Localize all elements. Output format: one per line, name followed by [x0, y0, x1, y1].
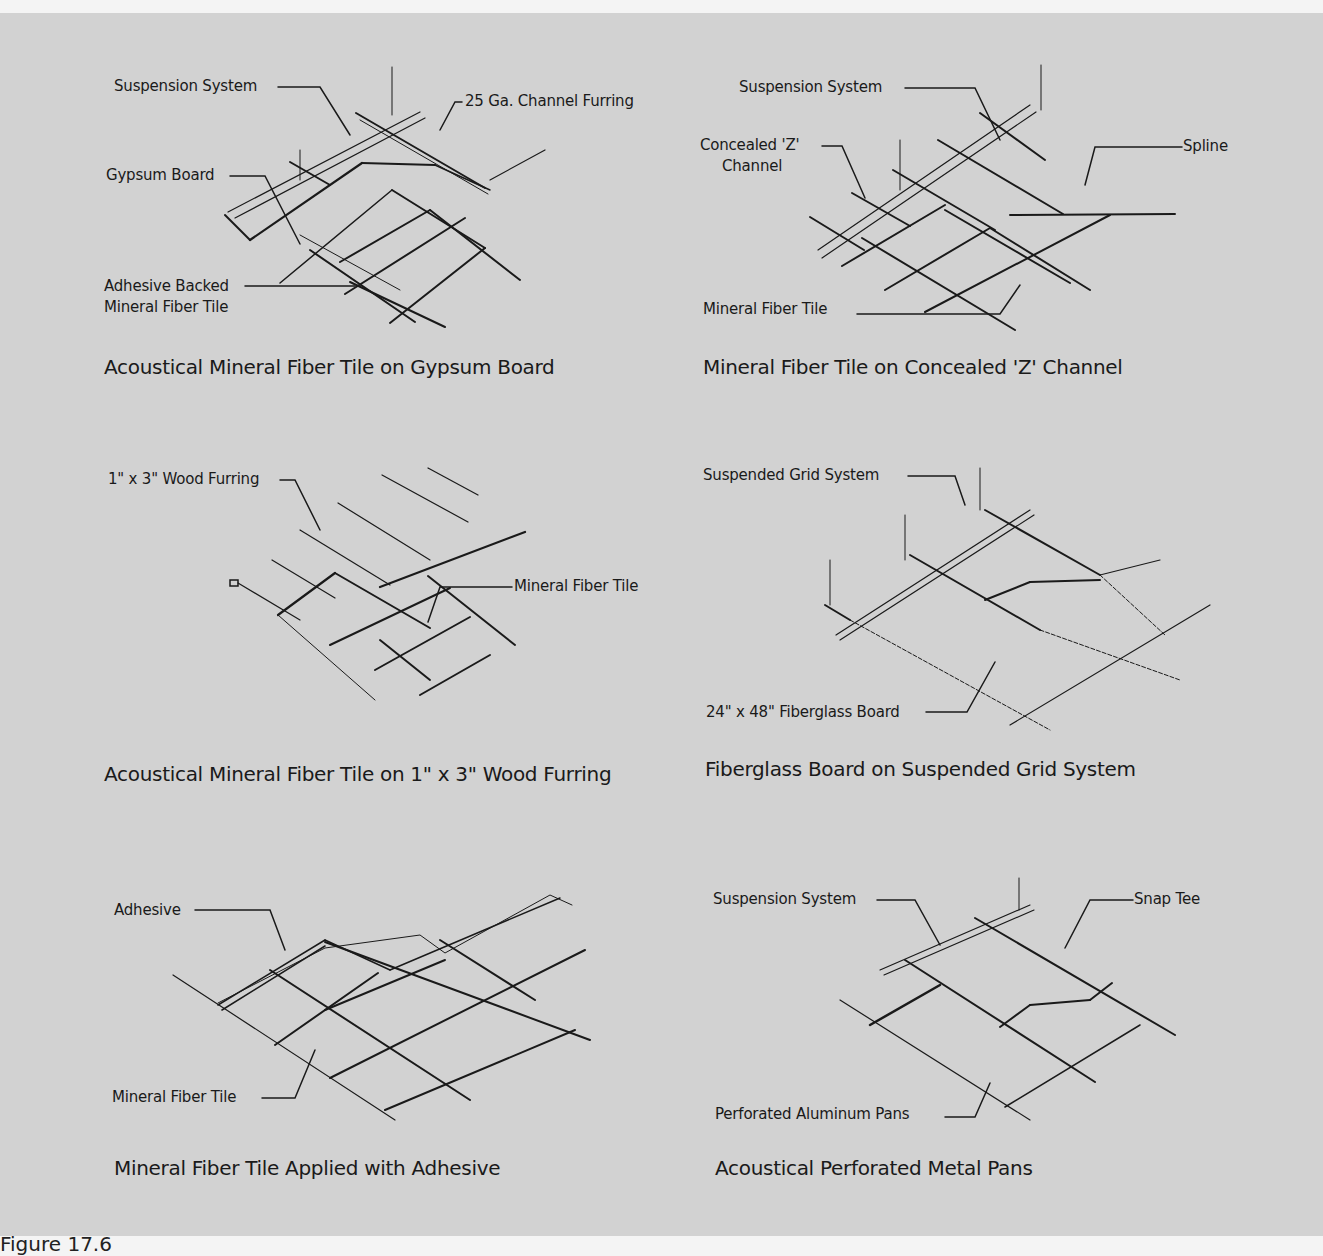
label-mineral-fiber-tile: Mineral Fiber Tile	[112, 1088, 236, 1106]
label-perforated-aluminum-pans: Perforated Aluminum Pans	[715, 1105, 909, 1123]
figure-label: Figure 17.6	[0, 1232, 112, 1256]
caption-z-channel: Mineral Fiber Tile on Concealed 'Z' Chan…	[703, 355, 1123, 379]
label-mineral-fiber-tile: Mineral Fiber Tile	[703, 300, 827, 318]
caption-metal-pans: Acoustical Perforated Metal Pans	[715, 1156, 1033, 1180]
label-spline: Spline	[1183, 137, 1228, 155]
diagram-suspended-grid	[825, 468, 1210, 730]
caption-adhesive: Mineral Fiber Tile Applied with Adhesive	[114, 1156, 500, 1180]
label-gypsum-board: Gypsum Board	[106, 166, 214, 184]
caption-wood-furring: Acoustical Mineral Fiber Tile on 1" x 3"…	[104, 762, 611, 786]
label-suspension-system: Suspension System	[114, 77, 257, 95]
label-concealed-z: Concealed 'Z'	[700, 136, 799, 154]
label-suspension-system: Suspension System	[713, 890, 856, 908]
label-wood-furring: 1" x 3" Wood Furring	[108, 470, 259, 488]
caption-suspended-grid: Fiberglass Board on Suspended Grid Syste…	[705, 757, 1136, 781]
label-channel: Channel	[722, 157, 782, 175]
label-mineral-fiber-tile: Mineral Fiber Tile	[104, 298, 228, 316]
label-channel-furring: 25 Ga. Channel Furring	[465, 92, 634, 110]
label-snap-tee: Snap Tee	[1134, 890, 1200, 908]
label-leaders	[195, 87, 1182, 1117]
label-fiberglass-board: 24" x 48" Fiberglass Board	[706, 703, 900, 721]
diagram-metal-pans	[840, 878, 1175, 1120]
diagram-wood-furring	[230, 468, 525, 700]
label-mineral-fiber-tile: Mineral Fiber Tile	[514, 577, 638, 595]
label-adhesive: Adhesive	[114, 901, 181, 919]
label-adhesive-backed: Adhesive Backed	[104, 277, 229, 295]
caption-gypsum-board: Acoustical Mineral Fiber Tile on Gypsum …	[104, 355, 555, 379]
label-suspended-grid-system: Suspended Grid System	[703, 466, 879, 484]
diagram-adhesive	[173, 895, 590, 1120]
label-suspension-system: Suspension System	[739, 78, 882, 96]
